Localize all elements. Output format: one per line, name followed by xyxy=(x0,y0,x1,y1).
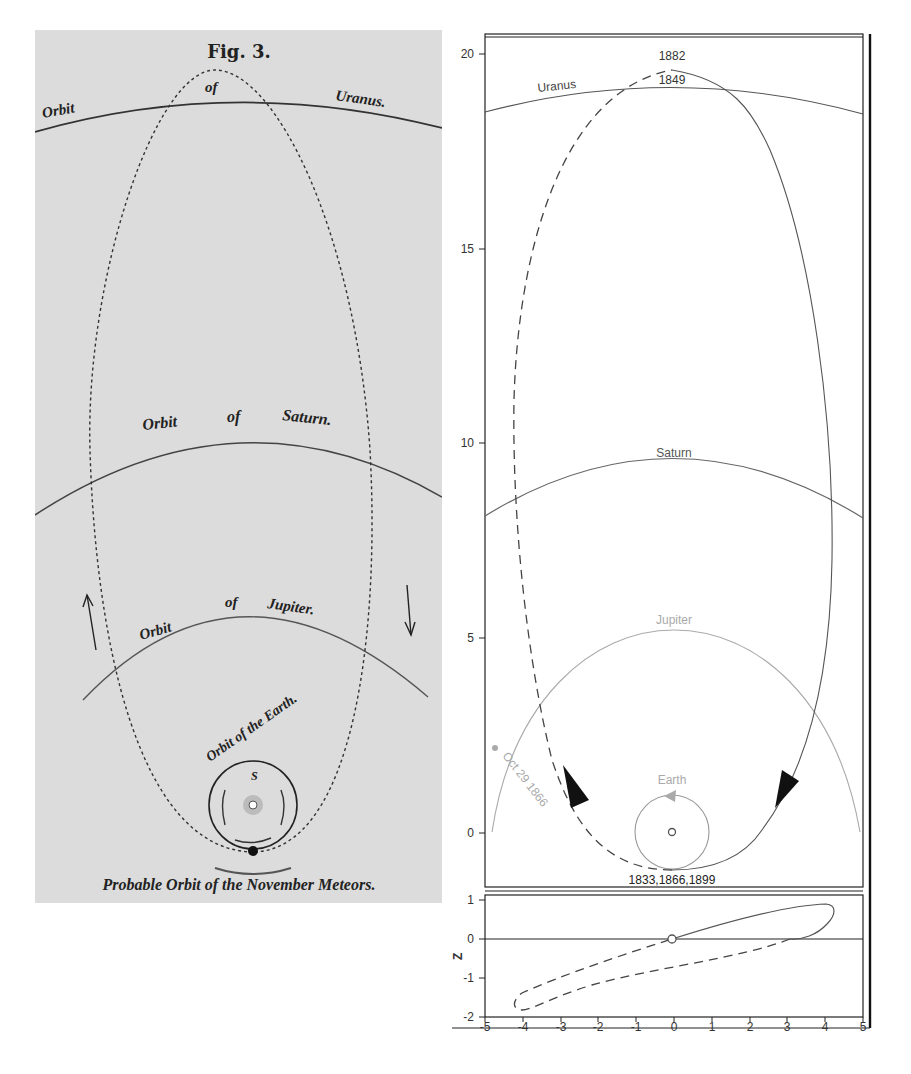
jupiter-name: Jupiter. xyxy=(266,595,316,618)
earth-body-icon xyxy=(248,846,258,856)
uranus-of-word: of xyxy=(205,79,220,95)
saturn-orbit-word: Orbit xyxy=(142,412,179,433)
z-sun-marker-icon xyxy=(668,935,676,943)
y-tick-5: 5 xyxy=(467,631,474,645)
y-tick-0: 0 xyxy=(467,826,474,840)
aphelion-1882-label: 1882 xyxy=(659,49,686,63)
x-tick: -3 xyxy=(556,1020,567,1034)
y-tick-10: 10 xyxy=(461,436,475,450)
main-plot-frame xyxy=(485,34,863,887)
earth-motion-arrow-icon xyxy=(235,838,271,843)
historical-figure-drawing: Fig. 3. Orbit of Uranus. Orbit of Saturn… xyxy=(35,30,442,903)
z-tick-neg1: -1 xyxy=(463,971,474,985)
x-tick: -2 xyxy=(593,1020,604,1034)
earth-label: Earth xyxy=(658,773,687,787)
x-tick: -5 xyxy=(480,1020,491,1034)
saturn-of-word: of xyxy=(227,408,242,426)
sun-label: S xyxy=(251,769,258,783)
z-plot-frame xyxy=(485,895,863,1017)
x-tick: -1 xyxy=(631,1020,642,1034)
caption-strip xyxy=(0,1050,911,1074)
uranus-name: Uranus. xyxy=(335,87,387,110)
x-tick: 4 xyxy=(822,1020,829,1034)
uranus-orbit-word: Orbit xyxy=(41,99,77,121)
x-tick-labels: -5 -4 -3 -2 -1 0 1 2 3 4 5 xyxy=(480,1020,867,1034)
x-tick: 5 xyxy=(860,1020,867,1034)
x-tick: 0 xyxy=(671,1020,678,1034)
modern-plot-drawing: 20 15 10 5 0 Uranus 1882 1849 Saturn Jup… xyxy=(452,0,911,1074)
y-tick-20: 20 xyxy=(461,47,475,61)
jupiter-label: Jupiter xyxy=(656,613,692,627)
meteor-swarm-arc xyxy=(215,868,291,874)
figure-title: Fig. 3. xyxy=(207,41,271,62)
z-tick-1: 1 xyxy=(467,893,474,907)
earth-orbit-label: Orbit of the Earth. xyxy=(203,691,300,765)
saturn-orbit-line xyxy=(35,443,442,515)
perihelion-years-label: 1833,1866,1899 xyxy=(629,873,716,887)
earth-motion-arrow-icon xyxy=(281,790,284,825)
historical-figure: Fig. 3. Orbit of Uranus. Orbit of Saturn… xyxy=(35,30,442,903)
jupiter-of-word: of xyxy=(225,594,240,610)
z-tick-0: 0 xyxy=(467,932,474,946)
x-tick: -4 xyxy=(518,1020,529,1034)
jupiter-encounter-point xyxy=(492,745,498,751)
figure-caption: Probable Orbit of the November Meteors. xyxy=(102,876,376,894)
aphelion-1849-label: 1849 xyxy=(659,73,686,87)
z-axis-label: Z xyxy=(452,953,465,960)
y-tick-15: 15 xyxy=(461,242,475,256)
x-tick: 2 xyxy=(747,1020,754,1034)
saturn-label: Saturn xyxy=(656,446,691,460)
x-tick: 3 xyxy=(784,1020,791,1034)
modern-plot-figure: 20 15 10 5 0 Uranus 1882 1849 Saturn Jup… xyxy=(452,0,911,1074)
jupiter-orbit-word: Orbit xyxy=(137,618,173,643)
z-y-ticks xyxy=(479,900,485,1017)
earth-motion-arrow-icon xyxy=(223,790,226,825)
jupiter-orbit-line xyxy=(83,617,428,700)
main-y-ticks xyxy=(479,54,485,833)
z-tick-neg2: -2 xyxy=(463,1010,474,1024)
sun-icon xyxy=(249,801,257,809)
x-tick: 1 xyxy=(709,1020,716,1034)
saturn-name: Saturn. xyxy=(282,406,333,428)
